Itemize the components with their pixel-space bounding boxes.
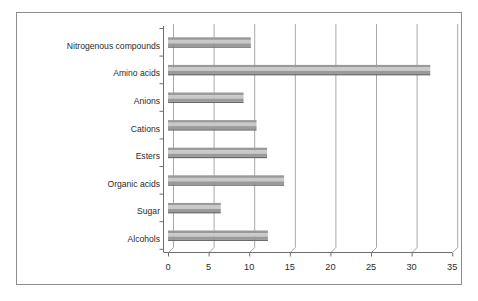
category-label-alcohols: Alcohols [128, 234, 160, 244]
bar-cations [168, 120, 257, 131]
x-tick-label-0: 0 [165, 262, 170, 272]
gridline-foot-15 [290, 248, 295, 253]
x-axis-tick-marks [169, 253, 453, 257]
gridline-foot-20 [331, 248, 336, 253]
gridline-foot-10 [250, 248, 255, 253]
gridlines [169, 24, 458, 253]
bar-sugar [168, 203, 221, 214]
category-label-anions: Anions [134, 96, 160, 106]
x-axis-tick-labels: 05101520253035 [165, 262, 457, 272]
x-tick-label-35: 35 [447, 262, 457, 272]
x-tick-label-15: 15 [285, 262, 295, 272]
category-label-sugar: Sugar [137, 206, 160, 216]
gridline-foot-35 [453, 248, 458, 253]
bar-chart: Nitrogenous compoundsAmino acidsAnionsCa… [0, 0, 478, 301]
bar-esters [168, 148, 267, 159]
category-label-organic-acids: Organic acids [107, 179, 160, 189]
x-tick-label-10: 10 [244, 262, 254, 272]
x-tick-label-30: 30 [406, 262, 416, 272]
x-tick-label-5: 5 [206, 262, 211, 272]
bar-organic-acids [168, 175, 284, 186]
x-tick-label-20: 20 [325, 262, 335, 272]
axes [164, 26, 453, 253]
category-label-amino-acids: Amino acids [113, 68, 160, 78]
bar-amino-acids [168, 65, 430, 76]
gridline-foot-25 [372, 248, 377, 253]
gridline-foot-30 [412, 248, 417, 253]
category-label-esters: Esters [136, 151, 160, 161]
gridline-foot-5 [209, 248, 214, 253]
bar-alcohols [168, 231, 268, 242]
category-labels: Nitrogenous compoundsAmino acidsAnionsCa… [67, 41, 160, 244]
gridline-foot-0 [169, 248, 174, 253]
x-tick-label-25: 25 [366, 262, 376, 272]
bar-nitrogenous-compounds [168, 37, 251, 48]
bars [168, 37, 430, 241]
category-label-nitrogenous-compounds: Nitrogenous compounds [67, 41, 160, 51]
category-label-cations: Cations [131, 124, 160, 134]
chart-figure: Nitrogenous compoundsAmino acidsAnionsCa… [0, 0, 478, 301]
category-tick-marks [160, 29, 164, 250]
bar-anions [168, 93, 244, 104]
